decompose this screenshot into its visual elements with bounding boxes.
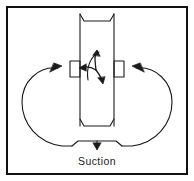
- suction-label: Suction: [78, 155, 116, 167]
- diagram-background: [0, 0, 194, 181]
- pump-flow-diagram: Suction: [0, 0, 194, 181]
- figure-container: Suction: [0, 0, 194, 181]
